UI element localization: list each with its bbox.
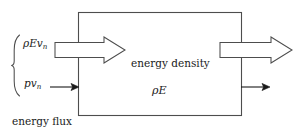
label-energy-advection-flux: ρEvn xyxy=(23,38,47,50)
energy-flux-diagram: ρEvn pvn energy density ρE energy flux xyxy=(0,0,303,135)
outflow-thin-arrow-icon xyxy=(241,83,270,90)
label-energy-density: energy density xyxy=(131,58,210,69)
caption-energy-flux: energy flux xyxy=(12,116,72,127)
outflow-block-arrow-icon xyxy=(220,37,292,63)
label-pressure-work-flux: pvn xyxy=(24,78,41,90)
inflow-block-arrow-icon xyxy=(55,37,125,63)
flux-grouping-brace-icon xyxy=(12,35,20,96)
label-energy-density-symbol: ρE xyxy=(152,85,167,96)
inflow-thin-arrow-icon xyxy=(50,83,79,90)
